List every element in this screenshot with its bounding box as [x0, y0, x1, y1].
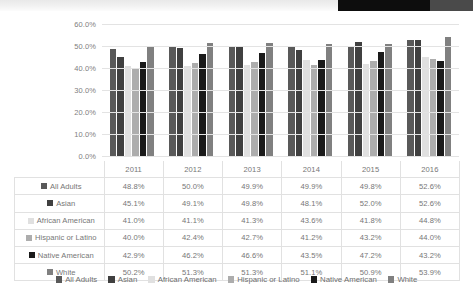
table-cell: 52.6% [400, 178, 459, 195]
bar [192, 63, 199, 156]
bar [370, 61, 377, 156]
table-cell: 48.1% [282, 195, 341, 212]
legend-swatch-icon [228, 276, 235, 283]
bar [207, 43, 214, 156]
series-name: Hispanic or Latino [35, 233, 97, 242]
legend-label: Asian [118, 275, 138, 284]
series-swatch-icon [29, 252, 35, 258]
bar [266, 43, 273, 156]
bar [236, 46, 243, 156]
bar [415, 40, 422, 156]
table-cell: 43.2% [400, 246, 459, 263]
table-row-label: Native American [15, 246, 105, 263]
table-row: Asian45.1%49.1%49.8%48.1%52.0%52.6% [15, 195, 460, 212]
legend-label: Hispanic or Latino [237, 275, 299, 284]
legend-label: All Adults [65, 275, 97, 284]
table-cell: 52.6% [400, 195, 459, 212]
bar [422, 57, 429, 156]
gridline [102, 46, 459, 47]
bar [184, 66, 191, 156]
table-column-header-2012: 2012 [163, 161, 222, 178]
bar [363, 64, 370, 156]
legend-item-african-american[interactable]: African American [148, 275, 216, 284]
series-swatch-icon [41, 183, 47, 189]
bar [348, 46, 355, 156]
gridline [102, 112, 459, 113]
bar [251, 62, 258, 156]
table-cell: 49.8% [341, 178, 400, 195]
table-row: All Adults48.8%50.0%49.9%49.9%49.8%52.6% [15, 178, 460, 195]
legend-swatch-icon [56, 276, 63, 283]
table-column-header-2015: 2015 [341, 161, 400, 178]
bar [140, 62, 147, 156]
gridline [102, 134, 459, 135]
legend-item-hispanic-or-latino[interactable]: Hispanic or Latino [228, 275, 300, 284]
table-cell: 43.6% [282, 212, 341, 229]
bar [407, 40, 414, 156]
y-axis-tick-label: 40.0% [74, 64, 96, 73]
legend-label: White [397, 275, 417, 284]
table-cell: 44.8% [400, 212, 459, 229]
table-column-header-2014: 2014 [282, 161, 341, 178]
table-row-label: African American [15, 212, 105, 229]
gridline [102, 68, 459, 69]
gridline [102, 24, 459, 25]
bar [125, 66, 132, 156]
bar [229, 46, 236, 156]
table-body: All Adults48.8%50.0%49.9%49.9%49.8%52.6%… [15, 178, 460, 281]
table-column-header-2016: 2016 [400, 161, 459, 178]
bar [117, 57, 124, 156]
bar [311, 65, 318, 156]
y-axis-tick-label: 20.0% [74, 108, 96, 117]
bar [296, 50, 303, 156]
table-cell: 42.9% [104, 246, 163, 263]
legend-label: Native American [320, 275, 377, 284]
series-swatch-icon [47, 200, 53, 206]
table-cell: 44.0% [400, 229, 459, 246]
table-row: Native American42.9%46.2%46.6%43.5%47.2%… [15, 246, 460, 263]
chart-container: 0.0%10.0%20.0%30.0%40.0%50.0%60.0% 20112… [0, 11, 473, 287]
bar [437, 61, 444, 156]
table-cell: 41.8% [341, 212, 400, 229]
y-axis-tick-label: 60.0% [74, 20, 96, 29]
series-swatch-icon [28, 218, 34, 224]
legend-swatch-icon [148, 276, 155, 283]
y-axis-tick-label: 0.0% [79, 152, 97, 161]
legend-item-white[interactable]: White [388, 275, 417, 284]
table-cell: 46.6% [223, 246, 282, 263]
bar [147, 46, 154, 156]
bar [177, 48, 184, 156]
legend-item-native-american[interactable]: Native American [311, 275, 377, 284]
table-cell: 41.2% [282, 229, 341, 246]
bar [244, 65, 251, 156]
y-axis-tick-label: 30.0% [74, 86, 96, 95]
table-row: African American41.0%41.1%41.3%43.6%41.8… [15, 212, 460, 229]
table-cell: 41.0% [104, 212, 163, 229]
table-cell: 43.2% [341, 229, 400, 246]
table-cell: 47.2% [341, 246, 400, 263]
bar [385, 44, 392, 156]
chart-legend: All AdultsAsianAfrican AmericanHispanic … [0, 275, 473, 284]
bar [318, 60, 325, 156]
table-row-label: All Adults [15, 178, 105, 195]
legend-item-all-adults[interactable]: All Adults [56, 275, 98, 284]
table-row: Hispanic or Latino40.0%42.4%42.7%41.2%43… [15, 229, 460, 246]
table-cell: 42.4% [163, 229, 222, 246]
legend-swatch-icon [108, 276, 115, 283]
legend-label: African American [158, 275, 217, 284]
table-cell: 45.1% [104, 195, 163, 212]
table-cell: 48.8% [104, 178, 163, 195]
table-cell: 42.7% [223, 229, 282, 246]
table-header-row: 201120122013201420152016 [15, 161, 460, 178]
series-name: Asian [56, 199, 75, 208]
plot-area [102, 24, 459, 156]
table-corner-cell [15, 161, 105, 178]
legend-item-asian[interactable]: Asian [108, 275, 137, 284]
bar [169, 46, 176, 156]
y-axis-tick-label: 10.0% [74, 130, 96, 139]
table-cell: 49.8% [223, 195, 282, 212]
table-cell: 50.0% [163, 178, 222, 195]
table-cell: 49.9% [223, 178, 282, 195]
bar [430, 59, 437, 156]
bar [445, 37, 452, 156]
